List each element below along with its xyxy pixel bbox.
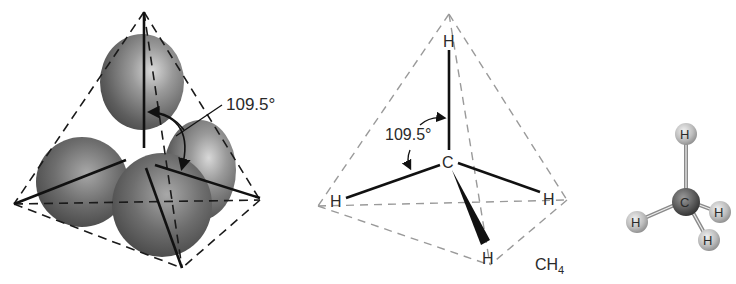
orbital-lobe-top: [100, 34, 184, 130]
atom-h-right: H: [543, 191, 555, 208]
structural-bonds: [346, 50, 540, 198]
atom-h-left: H: [330, 193, 342, 210]
ball-label-h-left: H: [631, 215, 640, 230]
tetrahedron-outline-light: [318, 14, 567, 265]
orbital-lobe-front: [112, 153, 212, 257]
structural-angle-label: 109.5°: [385, 126, 431, 143]
ball-label-h-right: H: [714, 205, 723, 220]
structural-formula-panel: 109.5° H C H H H CH4: [318, 14, 567, 276]
angle-arrow-left: [408, 150, 410, 168]
ball-and-stick-panel: H H C H H: [626, 123, 731, 251]
atom-h-front: H: [482, 250, 494, 267]
ball-label-c: C: [680, 195, 689, 210]
atom-h-top: H: [443, 33, 455, 50]
formula-label: CH4: [535, 256, 564, 276]
ball-label-h-front: H: [703, 233, 712, 248]
stick-bonds: [640, 140, 718, 238]
angle-arrow-top: [420, 118, 444, 125]
ball-label-h-top: H: [680, 127, 689, 142]
orbital-model-panel: 109.5°: [14, 12, 275, 268]
orbital-angle-label: 109.5°: [226, 95, 275, 114]
wedge-bond: [452, 170, 490, 245]
atom-c-center: C: [442, 154, 454, 171]
